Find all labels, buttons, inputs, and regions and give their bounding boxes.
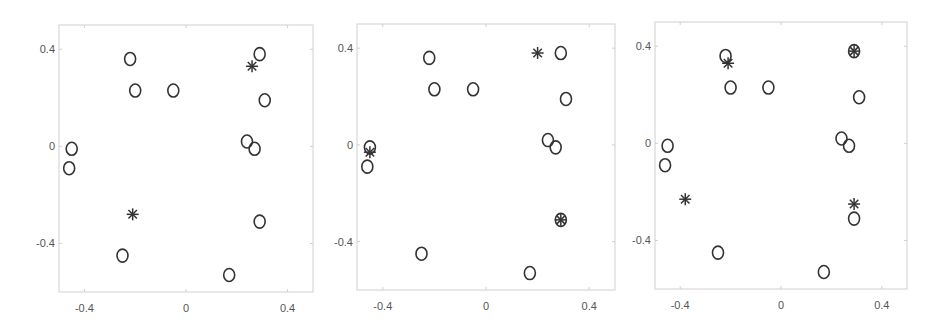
circle-marker	[854, 91, 865, 104]
scatter-panel-1: -0.400.40.40-0.4	[19, 21, 317, 322]
circle-marker	[836, 132, 847, 145]
circle-marker	[66, 142, 77, 155]
circle-marker	[725, 81, 736, 94]
circle-marker	[763, 81, 774, 94]
circle-marker	[130, 84, 141, 97]
circle-marker	[168, 84, 179, 97]
circle-marker	[818, 266, 829, 279]
asterisk-marker	[555, 214, 567, 226]
x-tick-label: -0.4	[373, 300, 392, 312]
circle-marker	[468, 83, 479, 96]
asterisk-marker	[127, 208, 139, 220]
circle-marker	[362, 160, 373, 173]
y-tick-label: 0	[347, 139, 353, 151]
circle-marker	[550, 141, 561, 154]
asterisk-marker	[848, 45, 860, 57]
circle-marker	[849, 212, 860, 225]
circle-marker	[259, 94, 270, 107]
circle-marker	[254, 48, 265, 61]
y-tick-label: -0.4	[632, 234, 651, 246]
scatter-panel-3: -0.400.40.40-0.4	[615, 18, 911, 319]
circle-marker	[660, 159, 671, 172]
asterisk-marker	[679, 193, 691, 205]
axes-frame	[655, 22, 907, 289]
circle-marker	[64, 162, 75, 175]
circle-marker	[117, 249, 128, 262]
circle-marker	[542, 134, 553, 147]
circle-marker	[713, 246, 724, 259]
axes-frame	[357, 24, 615, 290]
x-tick-label: 0.4	[874, 299, 889, 311]
circle-marker	[254, 215, 265, 228]
x-tick-label: 0.4	[280, 302, 295, 314]
circle-marker	[241, 135, 252, 148]
circle-marker	[249, 142, 260, 155]
y-tick-label: 0	[645, 137, 651, 149]
axes-frame	[59, 25, 313, 292]
circle-marker	[662, 139, 673, 152]
circle-marker	[844, 139, 855, 152]
circle-marker	[224, 269, 235, 282]
x-tick-label: 0.4	[582, 300, 597, 312]
y-tick-label: 0	[49, 140, 55, 152]
circle-marker	[555, 47, 566, 60]
y-tick-label: 0.4	[40, 43, 55, 55]
x-tick-label: 0	[183, 302, 189, 314]
x-tick-label: -0.4	[75, 302, 94, 314]
scatter-panel-2: -0.400.40.40-0.4	[317, 20, 619, 320]
circle-marker	[560, 92, 571, 105]
circle-marker	[416, 247, 427, 260]
circle-marker	[424, 51, 435, 64]
asterisk-marker	[722, 57, 734, 69]
x-tick-label: 0	[483, 300, 489, 312]
asterisk-marker	[364, 146, 376, 158]
asterisk-marker	[532, 47, 544, 59]
circle-marker	[125, 52, 136, 65]
x-tick-label: -0.4	[671, 299, 690, 311]
circle-marker	[524, 267, 535, 280]
asterisk-marker	[848, 198, 860, 210]
x-tick-label: 0	[778, 299, 784, 311]
y-tick-label: -0.4	[36, 237, 55, 249]
y-tick-label: 0.4	[636, 40, 651, 52]
y-tick-label: -0.4	[334, 236, 353, 248]
circle-marker	[429, 83, 440, 96]
asterisk-marker	[246, 60, 258, 72]
y-tick-label: 0.4	[338, 42, 353, 54]
